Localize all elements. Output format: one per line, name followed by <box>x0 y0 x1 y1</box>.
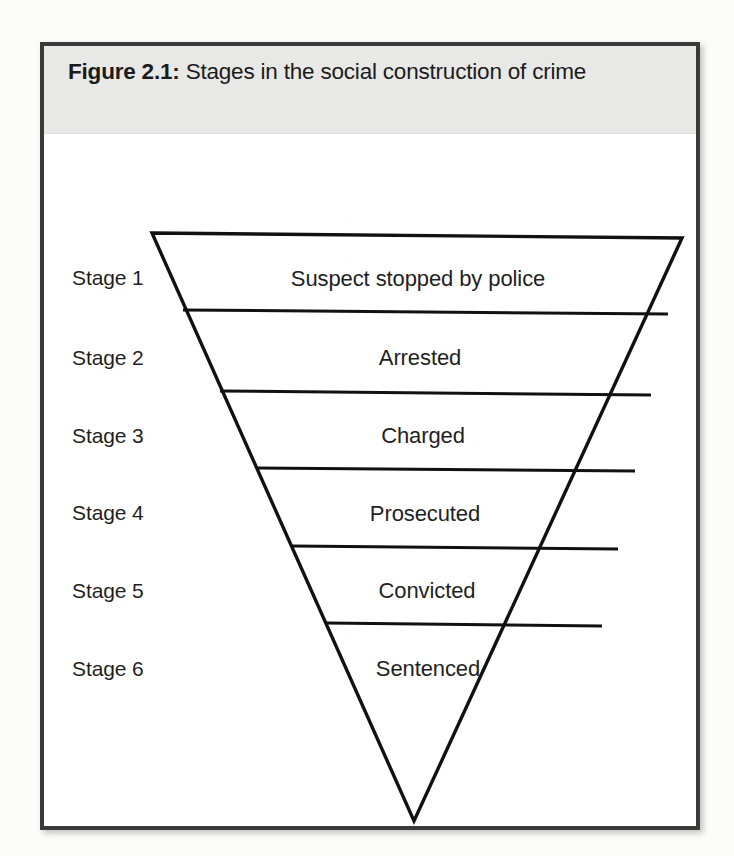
stage-label-4: Stage 4 <box>72 501 144 525</box>
figure-number-label: Figure 2.1: <box>68 59 180 84</box>
figure-caption: Figure 2.1: Stages in the social constru… <box>68 59 586 85</box>
stage-label-5: Stage 5 <box>72 579 144 603</box>
figure-caption-body: Stages in the social construction of cri… <box>180 59 587 84</box>
stage-text-1: Suspect stopped by police <box>291 266 545 292</box>
stage-text-3: Charged <box>381 423 465 449</box>
funnel-graphic <box>44 133 696 830</box>
stage-text-6: Sentenced <box>376 656 480 682</box>
stage-text-2: Arrested <box>379 345 461 371</box>
funnel-outline <box>152 233 682 821</box>
stage-label-2: Stage 2 <box>72 346 144 370</box>
stage-label-3: Stage 3 <box>72 424 144 448</box>
stage-label-6: Stage 6 <box>72 657 144 681</box>
figure-box: Figure 2.1: Stages in the social constru… <box>40 42 700 830</box>
stage-text-5: Convicted <box>379 578 476 604</box>
stage-label-1: Stage 1 <box>72 266 144 290</box>
funnel-diagram: Stage 1 Stage 2 Stage 3 Stage 4 Stage 5 … <box>44 133 696 830</box>
caption-band: Figure 2.1: Stages in the social constru… <box>44 46 696 134</box>
stage-text-4: Prosecuted <box>370 501 480 527</box>
